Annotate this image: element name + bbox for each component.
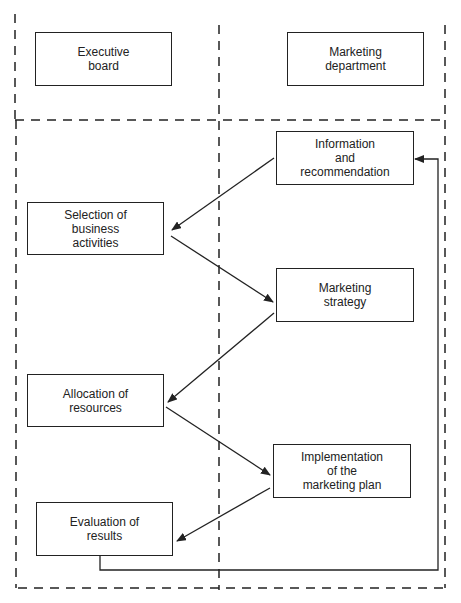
step-label: Implementation of the marketing plan: [301, 450, 383, 492]
step-label: Marketing strategy: [319, 281, 372, 309]
step-label: Selection of business activities: [64, 208, 127, 250]
arrow-allocation-to-implementation: [166, 407, 270, 475]
arrow-strategy-to-allocation: [168, 313, 274, 402]
step-selection-of-business-activities: Selection of business activities: [27, 202, 164, 255]
step-label: Information and recommendation: [300, 137, 389, 179]
arrow-info-to-selection: [172, 158, 274, 230]
marketing-department-label: Marketing department: [325, 45, 386, 73]
step-allocation-of-resources: Allocation of resources: [27, 374, 164, 427]
step-evaluation-of-results: Evaluation of results: [36, 502, 173, 556]
executive-board-header: Executive board: [35, 32, 172, 86]
arrow-implementation-to-evaluation: [177, 488, 270, 541]
marketing-department-header: Marketing department: [287, 32, 424, 86]
step-information-and-recommendation: Information and recommendation: [276, 131, 414, 185]
step-label: Allocation of resources: [63, 387, 128, 415]
step-marketing-strategy: Marketing strategy: [276, 268, 414, 322]
executive-board-label: Executive board: [77, 45, 129, 73]
step-label: Evaluation of results: [70, 515, 139, 543]
step-implementation-of-marketing-plan: Implementation of the marketing plan: [273, 444, 411, 498]
arrow-selection-to-strategy: [171, 236, 273, 302]
